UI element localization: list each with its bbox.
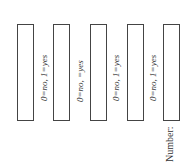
form-field-box-1[interactable] [17, 24, 34, 121]
field-hint-2: 0=no, =yes [75, 60, 85, 102]
number-field-box[interactable] [163, 24, 180, 121]
number-label: Number: [165, 126, 175, 162]
form-field-box-3[interactable] [90, 24, 107, 121]
form-field-box-2[interactable] [53, 24, 70, 121]
field-hint-4: 0=no, 1=yes [148, 55, 158, 101]
form-field-box-4[interactable] [127, 24, 144, 121]
field-hint-3: 0=no, 1=yes [111, 55, 121, 101]
field-hint-1: 0=no, 1=yes [39, 55, 49, 101]
